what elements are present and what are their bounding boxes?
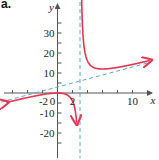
axes [4, 4, 152, 158]
y-tick-label: -20 [40, 127, 55, 139]
y-tick-label: -10 [40, 107, 55, 119]
y-axis-label: y [48, 1, 54, 13]
x-tick-label: 0 [50, 95, 56, 107]
y-tick-label: 20 [44, 47, 56, 59]
x-axis-label: x [150, 94, 156, 106]
asymptotes [1, 2, 150, 158]
x-tick-label: -2 [39, 95, 48, 107]
x-tick-label: 10 [127, 95, 139, 107]
x-tick-label: 2 [70, 95, 76, 107]
y-tick-label: 10 [44, 67, 56, 79]
tick-labels: -20210302010-10-20xy [39, 1, 156, 139]
right-branch [82, 0, 150, 69]
y-tick-label: 30 [44, 27, 56, 39]
function-graph: -20210302010-10-20xy [0, 0, 159, 160]
